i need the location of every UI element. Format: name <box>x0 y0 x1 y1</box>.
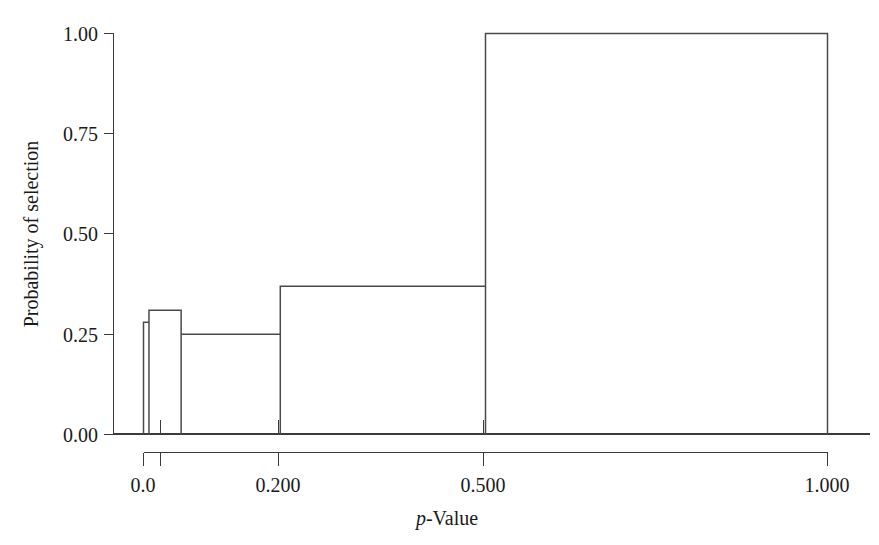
y-tick-label-0.50: 0.50 <box>63 223 98 245</box>
x-tick-label-0.0: 0.0 <box>131 474 156 496</box>
probability-of-selection-step-chart: 1.00 0.75 0.50 0.25 0.00 0.0 0.200 0.500… <box>0 0 879 545</box>
x-tick-label-0.200: 0.200 <box>256 474 301 496</box>
y-tick-label-1.00: 1.00 <box>63 23 98 45</box>
x-tick-label-0.500: 0.500 <box>461 474 506 496</box>
chart-figure: 1.00 0.75 0.50 0.25 0.00 0.0 0.200 0.500… <box>0 0 879 545</box>
y-tick-label-0.25: 0.25 <box>63 324 98 346</box>
x-tick-label-1.000: 1.000 <box>805 474 850 496</box>
step-histogram-outline <box>144 34 828 435</box>
x-axis-title-italic-p: p <box>414 507 426 530</box>
x-axis-title: p-Value <box>414 507 478 530</box>
y-tick-label-0.00: 0.00 <box>63 424 98 446</box>
y-axis-ticks <box>104 34 114 435</box>
y-axis-title: Probability of selection <box>20 141 43 328</box>
x-axis-tick-rail <box>144 453 828 467</box>
x-axis-title-rest: -Value <box>426 507 478 529</box>
y-tick-label-0.75: 0.75 <box>63 123 98 145</box>
